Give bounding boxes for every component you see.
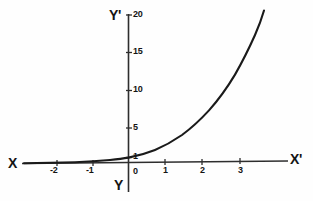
y-tick-label-20: 20 <box>133 10 143 19</box>
y-tick-label-5: 5 <box>133 123 138 132</box>
exponential-curve-figure: 20 15 10 5 1 -2 -1 0 1 2 3 X X' Y' Y <box>0 0 313 201</box>
x-tick-label-2: 2 <box>200 166 205 175</box>
y-axis-bottom-label: Y <box>114 178 123 192</box>
x-axis-right-label: X' <box>290 152 302 166</box>
exponential-curve <box>24 11 264 164</box>
y-tick-label-1: 1 <box>133 152 138 161</box>
x-tick-label-minus1: -1 <box>86 166 94 175</box>
x-tick-label-minus2: -2 <box>50 166 58 175</box>
plot-area <box>0 0 313 201</box>
y-axis-top-label: Y' <box>109 8 121 22</box>
y-tick-label-10: 10 <box>133 85 143 94</box>
y-tick-label-15: 15 <box>133 47 143 56</box>
x-tick-label-1: 1 <box>163 166 168 175</box>
x-axis-left-label: X <box>8 156 17 170</box>
x-tick-label-0: 0 <box>133 167 138 176</box>
x-tick-label-3: 3 <box>238 166 243 175</box>
